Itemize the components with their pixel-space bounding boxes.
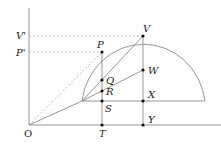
point-w xyxy=(141,68,144,71)
point-v xyxy=(141,34,144,37)
point-t xyxy=(100,123,103,126)
label-p-prime: P' xyxy=(15,47,25,58)
line-o-to-pivot xyxy=(29,101,82,125)
point-r xyxy=(100,89,103,92)
geometry-diagram: V P Q R S T W X Y V' P' O xyxy=(0,0,221,145)
label-y: Y xyxy=(148,114,156,125)
point-s xyxy=(100,99,103,102)
label-q: Q xyxy=(106,75,114,86)
point-p xyxy=(100,50,103,53)
label-w: W xyxy=(148,65,159,76)
semicircle-arc xyxy=(82,44,205,101)
point-y xyxy=(141,123,144,126)
label-p: P xyxy=(96,39,104,50)
point-x xyxy=(141,99,144,102)
label-origin: O xyxy=(24,128,32,139)
dashed-line-op xyxy=(29,52,102,125)
label-s: S xyxy=(105,103,112,114)
label-v-prime: V' xyxy=(16,30,26,41)
point-q xyxy=(100,78,103,81)
label-r: R xyxy=(105,86,114,97)
label-x: X xyxy=(147,89,156,100)
label-t: T xyxy=(99,128,107,139)
label-v: V xyxy=(143,23,152,34)
